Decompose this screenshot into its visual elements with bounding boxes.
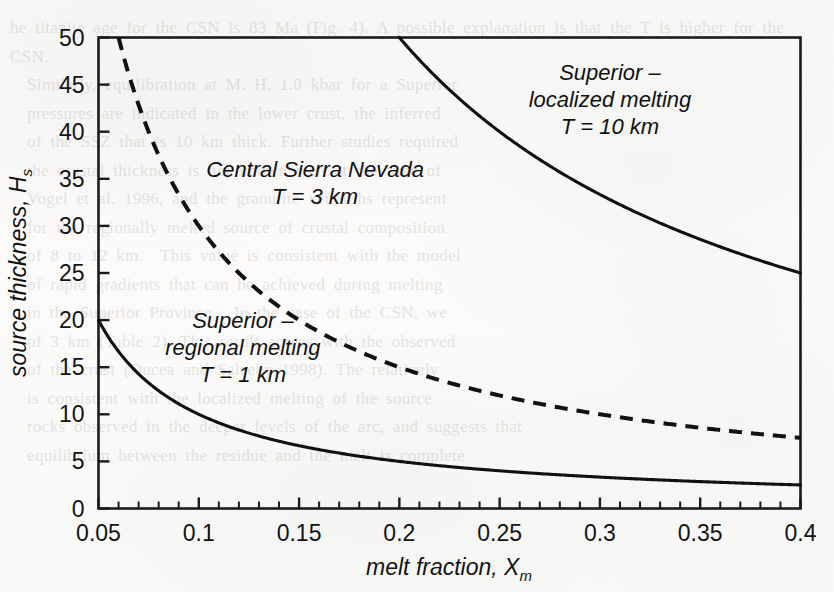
figure-panel: he titanite age for the CSN is 83 Ma (Fi… [0, 0, 834, 592]
x-tick-labels: 0.050.10.150.20.250.30.350.4 [76, 520, 817, 546]
curve-annotations: Superior –localized meltingT = 10 kmCent… [165, 60, 692, 387]
annotation-superior-regional: Superior –regional meltingT = 1 km [165, 308, 321, 387]
chart-canvas: 0.050.10.150.20.250.30.350.4 05101520253… [0, 0, 834, 592]
annotation-line: T = 1 km [200, 362, 286, 387]
y-axis-title: source thickness, Hs [5, 168, 35, 377]
annotation-line: T = 10 km [561, 114, 659, 139]
x-tick-label: 0.15 [277, 520, 322, 546]
axis-title-main: source thickness, H [5, 176, 31, 377]
y-tick-label: 15 [59, 354, 85, 380]
y-axis-title-text: source thickness, Hs [5, 168, 35, 377]
axis-title-subscript: m [519, 567, 532, 584]
y-tick-label: 35 [59, 166, 85, 192]
annotation-superior-localized: Superior –localized meltingT = 10 km [529, 60, 692, 139]
axis-title-subscript: s [18, 168, 35, 176]
y-tick-label: 25 [59, 260, 85, 286]
axis-ticks [99, 38, 801, 509]
axis-title-main: melt fraction, X [366, 554, 521, 580]
y-tick-label: 30 [59, 213, 85, 239]
y-tick-labels: 05101520253035404550 [59, 25, 85, 522]
y-tick-label: 50 [59, 25, 85, 51]
x-tick-label: 0.2 [383, 520, 415, 546]
curve-group [99, 38, 801, 485]
x-tick-label: 0.1 [183, 520, 215, 546]
y-tick-label: 40 [59, 119, 85, 145]
annotation-line: localized melting [529, 87, 692, 112]
y-tick-label: 20 [59, 307, 85, 333]
plot-frame [99, 38, 801, 509]
x-tick-label: 0.4 [785, 520, 817, 546]
annotation-central-sierra-nevada: Central Sierra NevadaT = 3 km [206, 157, 424, 209]
y-tick-label: 45 [59, 72, 85, 98]
x-axis-title-text: melt fraction, Xm [366, 554, 532, 584]
x-axis-title: melt fraction, Xm [366, 554, 532, 584]
x-tick-label: 0.05 [76, 520, 121, 546]
y-tick-label: 10 [59, 401, 85, 427]
annotation-line: Superior – [559, 60, 661, 85]
x-tick-label: 0.3 [584, 520, 616, 546]
annotation-line: T = 3 km [272, 184, 358, 209]
y-tick-label: 5 [72, 448, 85, 474]
annotation-line: Central Sierra Nevada [206, 157, 424, 182]
y-tick-label: 0 [72, 496, 85, 522]
annotation-line: regional melting [165, 335, 321, 360]
x-tick-label: 0.35 [678, 520, 723, 546]
annotation-line: Superior – [192, 308, 294, 333]
x-tick-label: 0.25 [477, 520, 522, 546]
